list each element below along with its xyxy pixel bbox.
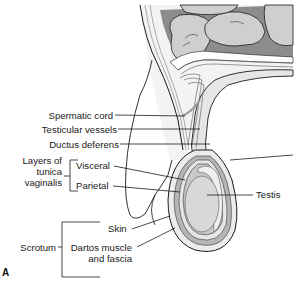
label-parietal: Parietal <box>76 180 109 191</box>
label-layers-line3: vaginalis <box>25 177 62 188</box>
testis <box>185 176 219 232</box>
label-skin: Skin <box>108 223 127 234</box>
panel-label: A <box>2 267 9 278</box>
label-dartos-line1: Dartos muscle <box>71 242 132 253</box>
label-visceral: Visceral <box>76 160 110 171</box>
label-dartos-line2: and fascia <box>88 253 132 264</box>
label-spermatic-cord: Spermatic cord <box>48 110 113 121</box>
leader-dartos <box>137 228 175 247</box>
label-testis: Testis <box>256 189 281 200</box>
anatomy-diagram: Spermatic cord Testicular vessels Ductus… <box>0 0 300 283</box>
scrotum-testis-illustration <box>0 0 300 283</box>
label-testicular-vessels: Testicular vessels <box>42 124 117 135</box>
label-layers-line2: tunica <box>36 166 62 177</box>
label-layers-line1: Layers of <box>23 155 62 166</box>
label-ductus-deferens: Ductus deferens <box>49 139 119 150</box>
label-scrotum: Scrotum <box>20 242 56 253</box>
